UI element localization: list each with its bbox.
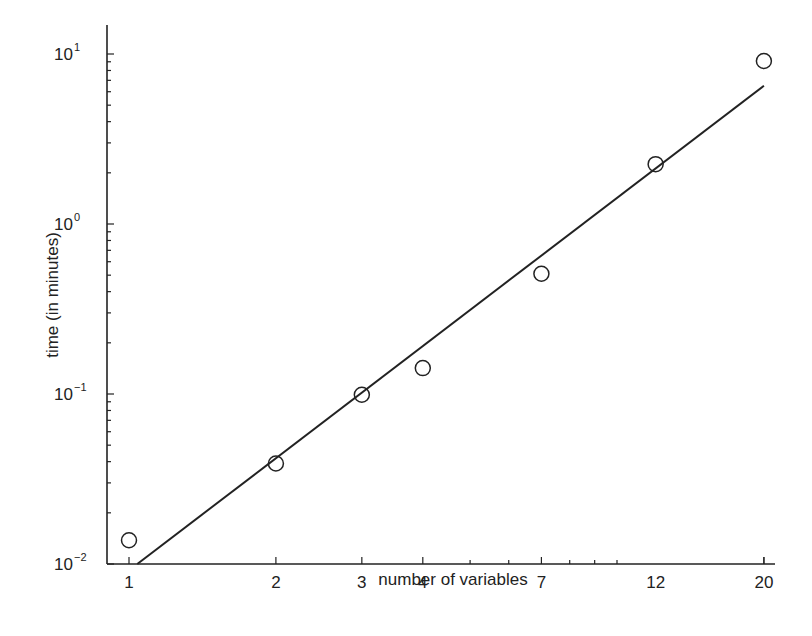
fit-line-path <box>137 86 764 564</box>
fit-line <box>137 86 764 564</box>
data-points <box>122 53 772 547</box>
x-tick-label: 2 <box>271 573 280 592</box>
y-tick-label: 10 <box>54 45 73 64</box>
data-point-marker <box>534 266 549 281</box>
x-axis-label: number of variables <box>378 570 527 589</box>
x-tick-label: 3 <box>357 573 366 592</box>
data-point-marker <box>756 53 771 68</box>
x-tick-label: 1 <box>124 573 133 592</box>
x-tick-label: 20 <box>754 573 773 592</box>
y-axis-label: time (in minutes) <box>43 232 62 358</box>
y-tick-exponent: −1 <box>74 381 87 393</box>
y-tick-exponent: 1 <box>74 41 80 53</box>
axes <box>107 25 775 564</box>
y-axis-ticks: 10−210−1100101 <box>54 41 114 574</box>
y-tick-label: 10 <box>54 385 73 404</box>
data-point-marker <box>122 533 137 548</box>
x-tick-label: 7 <box>537 573 546 592</box>
x-tick-label: 12 <box>646 573 665 592</box>
data-point-marker <box>415 361 430 376</box>
data-point-marker <box>354 387 369 402</box>
chart: 10−210−1100101 123471220 number of varia… <box>0 0 812 636</box>
y-tick-exponent: −2 <box>74 551 87 563</box>
y-tick-label: 10 <box>54 555 73 574</box>
y-tick-label: 10 <box>54 215 73 234</box>
y-tick-exponent: 0 <box>74 211 80 223</box>
